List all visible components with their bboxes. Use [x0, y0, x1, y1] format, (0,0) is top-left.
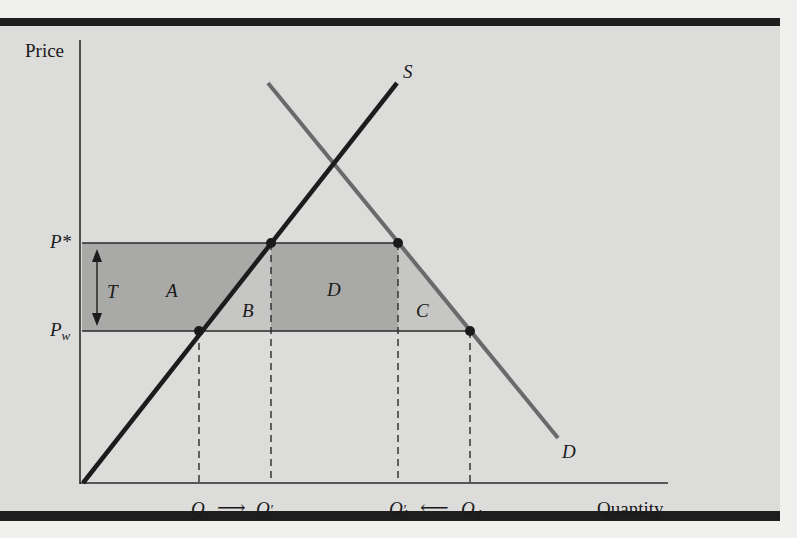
qd-label: Qd — [461, 499, 481, 521]
x-axis-label: Quantity — [597, 499, 664, 518]
tariff-diagram — [0, 0, 797, 538]
point-qs-prime — [266, 238, 276, 248]
region-b-label: B — [242, 301, 254, 320]
supply-label: S — [403, 62, 413, 81]
point-qs — [194, 326, 204, 336]
point-qd-prime — [393, 238, 403, 248]
qs-prime-label: Q′s — [256, 499, 273, 521]
pw-label: Pw — [50, 320, 70, 342]
point-qd — [465, 326, 475, 336]
tariff-label: T — [107, 282, 118, 301]
region-a-label: A — [166, 281, 178, 300]
p-star-label: P* — [50, 232, 71, 251]
qs-label: Qs — [191, 499, 210, 521]
region-d-label: D — [327, 280, 341, 299]
region-c-label: C — [416, 301, 429, 320]
qd-prime-label: Q′d — [389, 499, 407, 521]
arrow-left-icon: ⟵ — [420, 497, 449, 517]
arrow-right-icon: ⟶ — [217, 497, 246, 517]
demand-label: D — [562, 442, 576, 461]
y-axis-label: Price — [25, 41, 64, 60]
